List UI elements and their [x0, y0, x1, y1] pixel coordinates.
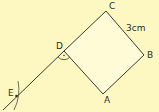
right-angle-dot-icon [63, 55, 65, 57]
label-point-a: A [104, 96, 110, 105]
label-point-e: E [8, 89, 14, 98]
label-point-c: C [109, 2, 115, 11]
diagram-svg [0, 0, 159, 112]
side-length-label: 3cm [126, 24, 145, 33]
extension-line-ce [3, 51, 64, 110]
right-angle-arc-icon [58, 57, 70, 60]
label-point-d: D [56, 42, 63, 51]
point-e-marker-icon [15, 95, 18, 98]
label-point-b: B [147, 51, 153, 60]
diagram-canvas: C B A D E 3cm [0, 0, 159, 112]
